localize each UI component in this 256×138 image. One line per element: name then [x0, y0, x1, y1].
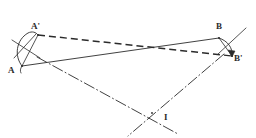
perpendicular-bisectors — [37, 54, 224, 136]
segment-AB — [22, 38, 219, 66]
segment-A-prime-B-prime — [38, 35, 232, 56]
point-B-marker — [218, 37, 220, 39]
label-point-b: B — [216, 22, 222, 31]
label-point-i: I — [164, 113, 168, 122]
label-point-a: A — [8, 66, 15, 75]
perpendicular-bisector-BB-prime — [128, 54, 224, 136]
point-A-marker — [21, 65, 23, 67]
point-I-marker — [151, 112, 153, 114]
rotation-arc-A-tail — [20, 66, 22, 73]
geometry-figure: A A' B B' I — [0, 0, 256, 138]
perpendicular-bisector-AA-prime — [37, 57, 178, 134]
construction-marks-near-A — [12, 34, 40, 66]
point-B-prime-marker — [231, 55, 233, 57]
label-point-a-prime: A' — [31, 22, 40, 31]
rotation-arc-A-to-A-prime — [17, 32, 38, 66]
point-markers — [21, 34, 233, 114]
point-A-prime-marker — [37, 34, 39, 36]
label-point-b-prime: B' — [234, 54, 243, 63]
